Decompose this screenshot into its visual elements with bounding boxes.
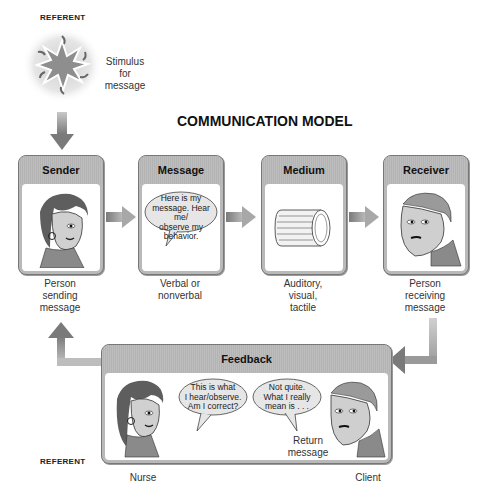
man-face-icon [387, 184, 465, 268]
diagram-title: COMMUNICATION MODEL [177, 113, 353, 129]
client-label: Client [343, 472, 393, 484]
message-bubble-text: Here is my message. Hear me/ observe my … [146, 194, 216, 242]
arrow-right-icon [106, 206, 136, 228]
stage-header: Medium [262, 156, 346, 184]
stage-box-message: Message Here is my message. Hear me/ obs… [138, 155, 224, 275]
arrow-right-icon [349, 206, 379, 228]
bubble-line: Am I correct? [179, 402, 247, 412]
caption-line: Person [383, 278, 467, 290]
feedback-header: Feedback [102, 345, 391, 373]
woman-face-icon [22, 184, 100, 268]
caption-line: visual, [261, 290, 345, 302]
arrow-right-icon [226, 206, 256, 228]
stage-box-receiver: Receiver [383, 155, 469, 275]
bubble-line: behavior. [146, 232, 216, 242]
arrow-down-icon [50, 112, 74, 152]
caption-line: Verbal or [138, 278, 222, 290]
client-face-icon [325, 373, 387, 459]
stimulus-line: message [100, 80, 150, 92]
nurse-label: Nurse [118, 472, 168, 484]
stimulus-line: Stimulus [100, 56, 150, 68]
bubble-line: mean is . . . [253, 402, 321, 412]
feedback-content: This is what I hear/observe. Am I correc… [105, 373, 388, 460]
client-bubble-text: Not quite. What I really mean is . . . [253, 383, 321, 412]
medium-caption: Auditory, visual, tactile [261, 278, 345, 314]
caption-line: Person [18, 278, 102, 290]
nurse-bubble-text: This is what I hear/observe. Am I correc… [179, 383, 247, 412]
caption-line: nonverbal [138, 290, 222, 302]
stage-header: Sender [19, 156, 103, 184]
bubble-line: message. Hear me/ [146, 204, 216, 223]
stimulus-text: Stimulus for message [100, 56, 150, 92]
stage-header: Message [139, 156, 223, 184]
stage-header: Receiver [384, 156, 468, 184]
message-caption: Verbal or nonverbal [138, 278, 222, 302]
stimulus-line: for [100, 68, 150, 80]
caption-line: Auditory, [261, 278, 345, 290]
caption-line: message [18, 302, 102, 314]
caption-line: message [383, 302, 467, 314]
caption-line: tactile [261, 302, 345, 314]
cylinder-icon [265, 184, 343, 268]
stage-content [265, 184, 343, 271]
stimulus-star-icon [22, 26, 102, 104]
referent-label-bottom: REFERENT [40, 457, 86, 466]
stage-content: Here is my message. Hear me/ observe my … [142, 184, 220, 271]
referent-label-top: REFERENT [40, 13, 86, 22]
stage-content [22, 184, 100, 271]
sender-caption: Person sending message [18, 278, 102, 314]
feedback-box: Feedback This is what I hear/observe. Am… [101, 344, 392, 464]
feedback-arrow-left-icon [389, 318, 441, 374]
stage-box-medium: Medium [261, 155, 347, 275]
nurse-face-icon [109, 373, 179, 459]
stage-content [387, 184, 465, 271]
receiver-caption: Person receiving message [383, 278, 467, 314]
caption-line: receiving [383, 290, 467, 302]
stage-box-sender: Sender [18, 155, 104, 275]
feedback-arrow-up-icon [48, 322, 104, 368]
caption-line: sending [18, 290, 102, 302]
